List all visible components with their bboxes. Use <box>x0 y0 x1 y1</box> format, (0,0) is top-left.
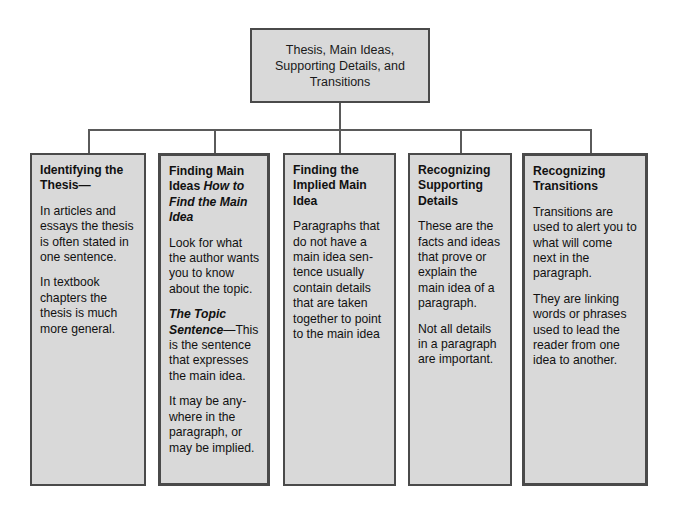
node-4-paragraph-2: Not all details in a paragraph are impor… <box>418 322 503 368</box>
node-2-heading: Finding Main Ideas How to Find the Main … <box>169 164 260 226</box>
connector-drop-5 <box>590 129 592 153</box>
node-1-paragraph-2: In textbook chapters the thesis is much … <box>40 275 137 337</box>
node-5-heading: Recognizing Transitions <box>533 164 638 195</box>
node-2-subheading-italic: The Topic Sentence <box>169 307 226 336</box>
node-1-heading-text: Identifying the Thesis— <box>40 163 123 192</box>
concept-map-diagram: Thesis, Main Ideas, Supporting Details, … <box>0 0 677 509</box>
node-identifying-the-thesis[interactable]: Identifying the Thesis— In articles and … <box>30 153 146 486</box>
node-3-heading: Finding the Implied Main Idea <box>293 163 387 209</box>
connector-root-stem <box>339 103 341 131</box>
node-1-heading: Identifying the Thesis— <box>40 163 137 194</box>
node-recognizing-supporting-details[interactable]: Recognizing Supporting Details These are… <box>408 153 512 486</box>
node-2-paragraph-1: Look for what the author wants you to kn… <box>169 236 260 298</box>
node-1-paragraph-1: In articles and essays the thesis is oft… <box>40 204 137 266</box>
node-recognizing-transitions[interactable]: Recognizing Transitions Transitions are … <box>522 153 648 486</box>
node-2-paragraph-2: It may be any-where in the paragraph, or… <box>169 394 260 456</box>
node-5-paragraph-1: Transitions are used to alert you to wha… <box>533 205 638 282</box>
node-3-paragraph-1: Paragraphs that do not have a main idea … <box>293 219 387 342</box>
node-2-subheading-block: The Topic Sentence—This is the sentence … <box>169 307 260 384</box>
root-node-thesis-main-ideas[interactable]: Thesis, Main Ideas, Supporting Details, … <box>250 28 430 103</box>
node-4-paragraph-1: These are the facts and ideas that prove… <box>418 219 503 311</box>
node-4-heading: Recognizing Supporting Details <box>418 163 503 209</box>
node-finding-main-ideas[interactable]: Finding Main Ideas How to Find the Main … <box>158 153 270 486</box>
node-4-heading-text: Recognizing Supporting Details <box>418 163 490 208</box>
node-5-heading-text: Recognizing Transitions <box>533 164 605 193</box>
connector-drop-2 <box>214 129 216 153</box>
connector-drop-4 <box>460 129 462 153</box>
node-3-heading-text: Finding the Implied Main Idea <box>293 163 367 208</box>
connector-drop-1 <box>88 129 90 153</box>
node-5-paragraph-2: They are linking words or phrases used t… <box>533 292 638 369</box>
root-node-label: Thesis, Main Ideas, Supporting Details, … <box>269 42 411 90</box>
connector-drop-3 <box>339 129 341 153</box>
node-finding-the-implied-main-idea[interactable]: Finding the Implied Main Idea Paragraphs… <box>283 153 396 486</box>
